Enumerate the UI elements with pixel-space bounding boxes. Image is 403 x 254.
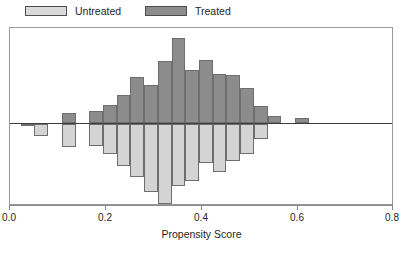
bar-untreated: [144, 124, 157, 192]
bar-untreated: [21, 124, 34, 126]
bar-treated: [254, 106, 268, 123]
bar-treated: [89, 111, 103, 123]
bar-untreated: [130, 124, 144, 177]
bar-untreated: [117, 124, 130, 166]
bar-untreated: [185, 124, 199, 181]
propensity-score-histogram-figure: Untreated Treated 0.00.20.40.60.8 Propen…: [0, 0, 403, 254]
bar-untreated: [62, 124, 76, 147]
x-axis-tick: [201, 205, 202, 210]
x-axis-tick-label: 0.6: [277, 212, 317, 223]
bar-untreated: [34, 124, 48, 136]
legend-entry-treated: Treated: [145, 4, 231, 18]
legend-swatch-untreated-icon: [25, 6, 67, 16]
bar-untreated: [103, 124, 117, 154]
x-axis-tick-label: 0.4: [181, 212, 221, 223]
bar-treated: [199, 60, 212, 123]
bar-treated: [172, 38, 185, 123]
bar-treated: [144, 85, 157, 123]
bar-treated: [130, 77, 144, 123]
chart-legend: Untreated Treated: [0, 0, 403, 22]
zero-baseline: [10, 123, 392, 124]
bar-untreated: [213, 124, 227, 172]
x-axis-tick: [297, 205, 298, 210]
x-axis-tick: [9, 205, 10, 210]
bar-untreated: [226, 124, 240, 161]
bar-treated: [62, 113, 76, 123]
bar-untreated: [240, 124, 253, 154]
x-axis-tick: [392, 205, 393, 210]
legend-label-treated: Treated: [195, 6, 231, 16]
legend-entry-untreated: Untreated: [25, 4, 121, 18]
bar-treated: [226, 75, 240, 123]
plot-area: [9, 27, 393, 205]
legend-label-untreated: Untreated: [75, 6, 121, 16]
x-axis-tick-label: 0.0: [0, 212, 29, 223]
bar-untreated: [172, 124, 185, 186]
legend-swatch-treated-icon: [145, 6, 187, 16]
bars-layer: [10, 28, 392, 204]
bar-untreated: [89, 124, 103, 146]
bar-treated: [213, 74, 227, 123]
bar-treated: [268, 116, 281, 123]
bar-treated: [240, 88, 253, 123]
x-axis-tick-label: 0.2: [85, 212, 125, 223]
bar-untreated: [199, 124, 212, 163]
x-axis-tick-label: 0.8: [372, 212, 403, 223]
bar-treated: [103, 105, 117, 123]
x-axis-tick: [105, 205, 106, 210]
bar-treated: [117, 95, 130, 123]
bar-treated: [158, 61, 172, 123]
bar-untreated: [158, 124, 172, 204]
bar-untreated: [254, 124, 268, 139]
x-axis-title: Propensity Score: [0, 228, 403, 240]
bar-treated: [185, 70, 199, 123]
